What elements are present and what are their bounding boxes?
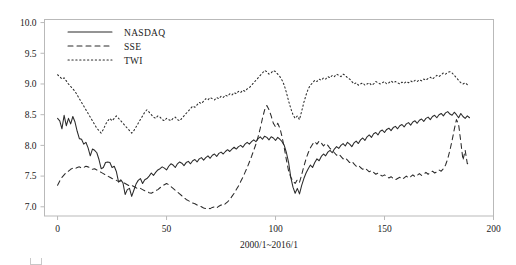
x-tick-label: 0 [55, 224, 60, 234]
footer-swatch [30, 258, 42, 265]
legend-label-sse: SSE [124, 42, 141, 52]
x-tick-label: 200 [486, 224, 501, 234]
stock-index-line-chart: 7.07.58.08.59.09.510.0 050100150200 NASD… [0, 0, 516, 265]
y-tick-label: 7.5 [25, 171, 37, 181]
x-tick-label: 150 [377, 224, 392, 234]
legend-label-twi: TWI [124, 56, 143, 66]
y-tick-label: 7.0 [25, 202, 37, 212]
y-tick-label: 8.0 [25, 141, 37, 151]
figure-footer-row [0, 258, 516, 265]
y-tick-label: 9.0 [25, 79, 37, 89]
x-axis-title: 2000/1~2016/1 [240, 240, 298, 250]
y-tick-label: 8.5 [25, 110, 37, 120]
chart-figure: 7.07.58.08.59.09.510.0 050100150200 NASD… [0, 0, 516, 265]
y-tick-label: 10.0 [20, 18, 37, 28]
x-tick-label: 50 [162, 224, 172, 234]
legend-label-nasdaq: NASDAQ [124, 28, 165, 38]
x-tick-label: 100 [268, 224, 283, 234]
y-tick-label: 9.5 [25, 49, 37, 59]
